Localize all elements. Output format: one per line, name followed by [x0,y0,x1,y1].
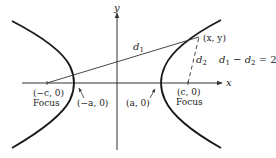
left-vertex-label: (−a, 0) [77,98,108,108]
y-axis-label: y [113,2,120,13]
left-focus-caption: Focus [33,98,60,108]
right-vertex-label: (a, 0) [126,98,150,108]
d1-line [47,37,199,83]
d2-label: d2 [196,54,207,67]
x-axis-label: x [226,77,232,88]
right-vertex-arrow [150,89,155,98]
left-focus-coord: (−c, 0) [33,88,64,98]
point-label: (x, y) [203,33,226,43]
d1-label: d1 [133,41,144,54]
left-branch [12,21,74,148]
hyperbola-diagram: y x d1 d2 (x, y) d1 − d2 = 2a (−c, 0) Fo… [0,0,276,158]
left-vertex-arrow [79,88,84,98]
right-focus-caption: Focus [176,97,203,107]
equation: d1 − d2 = 2a [219,54,276,67]
right-focus-coord: (c, 0) [177,87,201,97]
